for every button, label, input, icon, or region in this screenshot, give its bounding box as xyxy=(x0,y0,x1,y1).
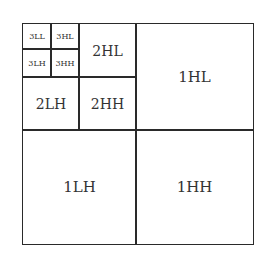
subband-3lh: 3LH xyxy=(22,48,52,78)
subband-1hh: 1HH xyxy=(135,129,254,245)
label-3hh: 3HH xyxy=(55,59,74,68)
subband-2hh: 2HH xyxy=(78,76,137,131)
label-3hl: 3HL xyxy=(56,32,73,41)
subband-2hl: 2HL xyxy=(78,23,137,78)
subband-3hh: 3HH xyxy=(50,48,80,78)
label-2hl: 2HL xyxy=(92,43,122,59)
subband-3hl: 3HL xyxy=(50,23,80,50)
label-3lh: 3LH xyxy=(28,59,45,68)
subband-3ll: 3LL xyxy=(22,23,52,50)
subband-2lh: 2LH xyxy=(22,76,80,131)
label-2hh: 2HH xyxy=(91,96,124,112)
subband-1lh: 1LH xyxy=(22,129,137,245)
label-2lh: 2LH xyxy=(36,96,66,112)
label-1lh: 1LH xyxy=(63,178,96,196)
label-1hh: 1HH xyxy=(177,178,213,196)
label-1hl: 1HL xyxy=(178,68,211,86)
subband-1hl: 1HL xyxy=(135,23,254,131)
label-3ll: 3LL xyxy=(29,32,45,41)
